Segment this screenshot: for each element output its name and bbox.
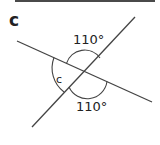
intersecting-lines-diagram: 110° c 110° [0, 0, 160, 145]
angle-label-top: 110° [73, 32, 104, 47]
angle-label-left: c [56, 73, 62, 86]
angle-arc-bottom [69, 82, 107, 99]
angle-arc-top [67, 50, 101, 63]
angle-label-bottom: 110° [76, 99, 107, 114]
